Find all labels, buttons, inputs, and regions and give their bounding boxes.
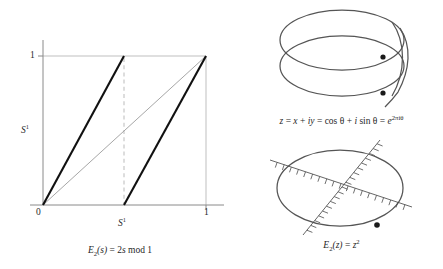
caption-sin: sin bbox=[357, 116, 373, 126]
helix-caption: z = x + iy = cos θ + i sin θ = e2πiθ bbox=[240, 116, 443, 126]
doubling-map-plot bbox=[0, 0, 240, 235]
helix-drawing bbox=[240, 0, 443, 115]
origin-tick-label: 0 bbox=[36, 208, 41, 218]
circle-ellipse bbox=[277, 150, 403, 226]
caption-equals: = bbox=[107, 245, 117, 255]
x-axis-tick-label-one: 1 bbox=[204, 208, 209, 218]
caption-eq3: = bbox=[377, 116, 387, 126]
y-axis-tick-label-one: 1 bbox=[30, 51, 35, 61]
squaring-map-caption: E2(z) = z2 bbox=[240, 240, 443, 250]
x-axis-label: S1 bbox=[118, 219, 126, 229]
hatched-line-steep-ticks bbox=[307, 144, 383, 233]
y-axis-label: S1 bbox=[21, 126, 29, 136]
caption-mod: mod 1 bbox=[126, 245, 152, 255]
circle-squaring-panel: E2(z) = z2 bbox=[240, 135, 443, 269]
caption-exp: 2 bbox=[356, 238, 359, 245]
helix-lower-loop bbox=[280, 36, 404, 96]
hatched-line-shallow-ticks bbox=[275, 162, 405, 210]
helix-marker-dot-lower bbox=[380, 90, 385, 95]
doubling-map-panel: 1 0 1 S1 S1 E2(s) = 2s mod 1 bbox=[0, 0, 240, 269]
doubling-map-caption: E2(s) = 2s mod 1 bbox=[0, 245, 240, 255]
squaring-map-drawing bbox=[240, 135, 443, 245]
caption-plus-two: + bbox=[344, 116, 354, 126]
helix-marker-dot-upper bbox=[380, 54, 385, 59]
hatched-line-shallow bbox=[270, 160, 412, 210]
figure-root: 1 0 1 S1 S1 E2(s) = 2s mod 1 z = x + iy … bbox=[0, 0, 443, 269]
hatched-line-steep-axis bbox=[303, 140, 380, 235]
caption-equals: = bbox=[343, 240, 353, 250]
circle-helix-panel: z = x + iy = cos θ + i sin θ = e2πiθ bbox=[240, 0, 443, 140]
helix-upper-loop bbox=[280, 10, 404, 70]
caption-exponent: 2πiθ bbox=[392, 114, 404, 121]
doubling-branch-second bbox=[124, 56, 206, 205]
doubling-branch-first bbox=[43, 56, 124, 205]
y-axis-label-exponent: 1 bbox=[26, 123, 29, 130]
caption-eq1: = bbox=[283, 116, 293, 126]
caption-iy: iy bbox=[308, 116, 315, 126]
caption-plus: + bbox=[298, 116, 308, 126]
circle-marker-dot bbox=[374, 222, 380, 228]
caption-fn-arg: (s) bbox=[97, 245, 107, 255]
x-axis-label-exponent: 1 bbox=[123, 216, 126, 223]
caption-fn-arg: (z) bbox=[332, 240, 342, 250]
caption-eq2: = cos bbox=[315, 116, 340, 126]
